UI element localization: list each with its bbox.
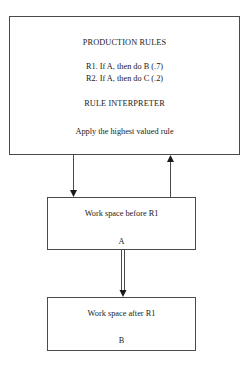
arrow-down-to-workspace <box>70 155 77 197</box>
connector-arrows <box>0 0 247 365</box>
double-arrow-apply-rule <box>120 250 127 297</box>
arrow-up-to-interpreter <box>167 155 174 197</box>
